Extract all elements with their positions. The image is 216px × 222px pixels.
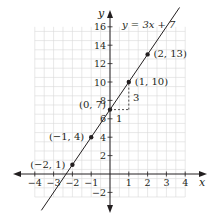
y-axis-up-arrow-icon bbox=[107, 10, 113, 18]
point-label: (1, 10) bbox=[135, 76, 168, 87]
data-point bbox=[145, 52, 149, 56]
data-point bbox=[108, 107, 112, 111]
x-tick-label: 3 bbox=[163, 177, 169, 188]
x-tick-label: −3 bbox=[47, 177, 61, 188]
y-tick-label: 14 bbox=[94, 40, 106, 51]
y-axis-label: y bbox=[97, 7, 105, 20]
point-label: (−2, 1) bbox=[30, 159, 65, 170]
y-tick-label: 16 bbox=[94, 21, 106, 32]
equation-label: y = 3x + 7 bbox=[121, 19, 176, 30]
x-tick-label: −2 bbox=[65, 177, 79, 188]
x-tick-label: −4 bbox=[28, 177, 42, 188]
point-label: (2, 13) bbox=[154, 48, 187, 59]
y-tick-label: 4 bbox=[100, 132, 106, 143]
x-tick-label: 2 bbox=[145, 177, 151, 188]
x-axis-left-arrow-icon bbox=[13, 171, 21, 177]
data-point bbox=[70, 163, 74, 167]
y-tick-label: 12 bbox=[94, 58, 106, 69]
y-tick-label: 2 bbox=[100, 150, 106, 161]
rise-label: 3 bbox=[133, 92, 139, 103]
y-tick-label: 10 bbox=[94, 77, 106, 88]
run-label: 1 bbox=[116, 113, 122, 124]
data-point bbox=[89, 135, 93, 139]
point-label: (−1, 4) bbox=[49, 131, 84, 142]
y-axis-down-arrow-icon bbox=[107, 205, 113, 213]
data-point bbox=[127, 80, 131, 84]
point-label: (0, 7) bbox=[79, 99, 106, 110]
y-tick-label: −2 bbox=[92, 187, 106, 198]
x-axis-label: x bbox=[199, 176, 206, 189]
x-tick-label: 1 bbox=[126, 177, 132, 188]
x-tick-label: 4 bbox=[182, 177, 188, 188]
linear-graph: −4−3−2−11234−2246810121416 1 3 (−2, 1)(−… bbox=[0, 0, 216, 222]
